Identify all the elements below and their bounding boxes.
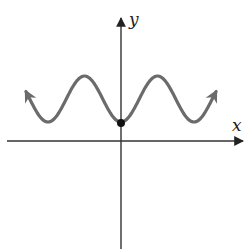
y-intercept-point <box>117 119 125 127</box>
y-axis-label: y <box>129 11 139 28</box>
graph-diagram: y x <box>0 0 251 249</box>
x-axis-label: x <box>232 117 242 134</box>
graph-canvas <box>0 0 251 249</box>
